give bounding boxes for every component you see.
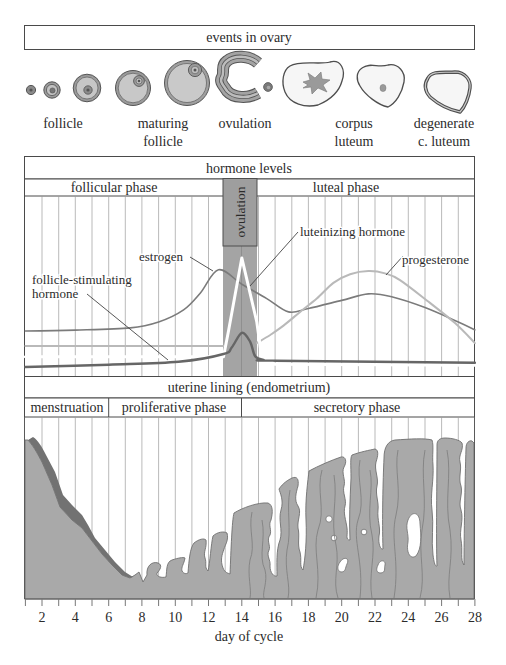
fsh-label-line2: hormone: [32, 286, 78, 301]
axis-tick-label: 20: [335, 610, 349, 625]
stage-label-maturing-1: maturing: [138, 116, 189, 131]
ovary-title: events in ovary: [206, 30, 292, 45]
stage-label-corpus-2: luteum: [335, 134, 374, 149]
axis-tick-label: 14: [235, 610, 249, 625]
axis-tick-marks: [25, 599, 475, 606]
axis-tick-label: 2: [39, 610, 46, 625]
hormone-title: hormone levels: [206, 161, 292, 176]
estrogen-leader-line: [190, 257, 213, 271]
axis-tick-label: 28: [468, 610, 482, 625]
degenerate-corpus-luteum-icon: [425, 72, 470, 112]
ovulation-phase-label: ovulation: [233, 186, 248, 237]
corpus-luteum-icon: [283, 61, 343, 105]
maturing-follicle-small-icon: [116, 71, 151, 106]
follicular-phase-label: follicular phase: [71, 180, 158, 195]
stage-label-maturing-2: follicle: [143, 134, 183, 149]
axis-tick-label: 8: [138, 610, 145, 625]
menstruation-label: menstruation: [30, 400, 103, 415]
follicle-primary-icon: [44, 82, 60, 98]
fsh-leader-line: [87, 294, 168, 360]
uterine-title: uterine lining (endometrium): [168, 380, 331, 396]
progesterone-leader-line: [386, 256, 403, 275]
axis-tick-labels: 246810121416182022242628: [39, 610, 482, 625]
maturing-follicle-large-icon: [165, 61, 210, 106]
ovary-section: events in ovary: [25, 26, 475, 150]
estrogen-label: estrogen: [139, 249, 184, 264]
luteal-phase-label: luteal phase: [313, 180, 379, 195]
follicle-primordial-icon: [26, 85, 35, 94]
axis-tick-label: 22: [368, 610, 382, 625]
axis-tick-label: 26: [435, 610, 449, 625]
hormone-section: hormone levels follicular phase luteal p…: [25, 157, 475, 377]
stage-label-ovulation: ovulation: [219, 116, 272, 131]
axis-tick-label: 24: [401, 610, 415, 625]
follicle-secondary-icon: [73, 74, 101, 102]
uterine-section: uterine lining (endometrium) menstruatio…: [25, 377, 475, 600]
secretory-phase-label: secretory phase: [314, 400, 401, 415]
stage-label-degenerate-2: c. luteum: [418, 134, 470, 149]
day-axis: 246810121416182022242628 day of cycle: [25, 599, 482, 644]
axis-title: day of cycle: [215, 629, 283, 644]
lh-label: luteinizing hormone: [300, 224, 405, 239]
corpus-luteum-regressing-icon: [357, 65, 404, 107]
axis-tick-label: 6: [105, 610, 112, 625]
progesterone-label: progesterone: [402, 252, 469, 267]
proliferative-phase-label: proliferative phase: [122, 400, 227, 415]
axis-tick-label: 18: [301, 610, 315, 625]
stage-label-corpus-1: corpus: [335, 116, 372, 131]
axis-tick-label: 12: [202, 610, 216, 625]
stage-label-follicle: follicle: [43, 116, 83, 131]
fsh-label-line1: follicle-stimulating: [32, 272, 132, 287]
released-egg-icon: [264, 83, 273, 92]
progesterone-curve: [257, 271, 475, 343]
axis-tick-label: 10: [168, 610, 182, 625]
stage-label-degenerate-1: degenerate: [414, 116, 475, 131]
axis-tick-label: 16: [268, 610, 282, 625]
ruptured-follicle-icon: [221, 57, 258, 97]
menstrual-cycle-diagram: events in ovary: [0, 0, 506, 665]
axis-tick-label: 4: [72, 610, 79, 625]
